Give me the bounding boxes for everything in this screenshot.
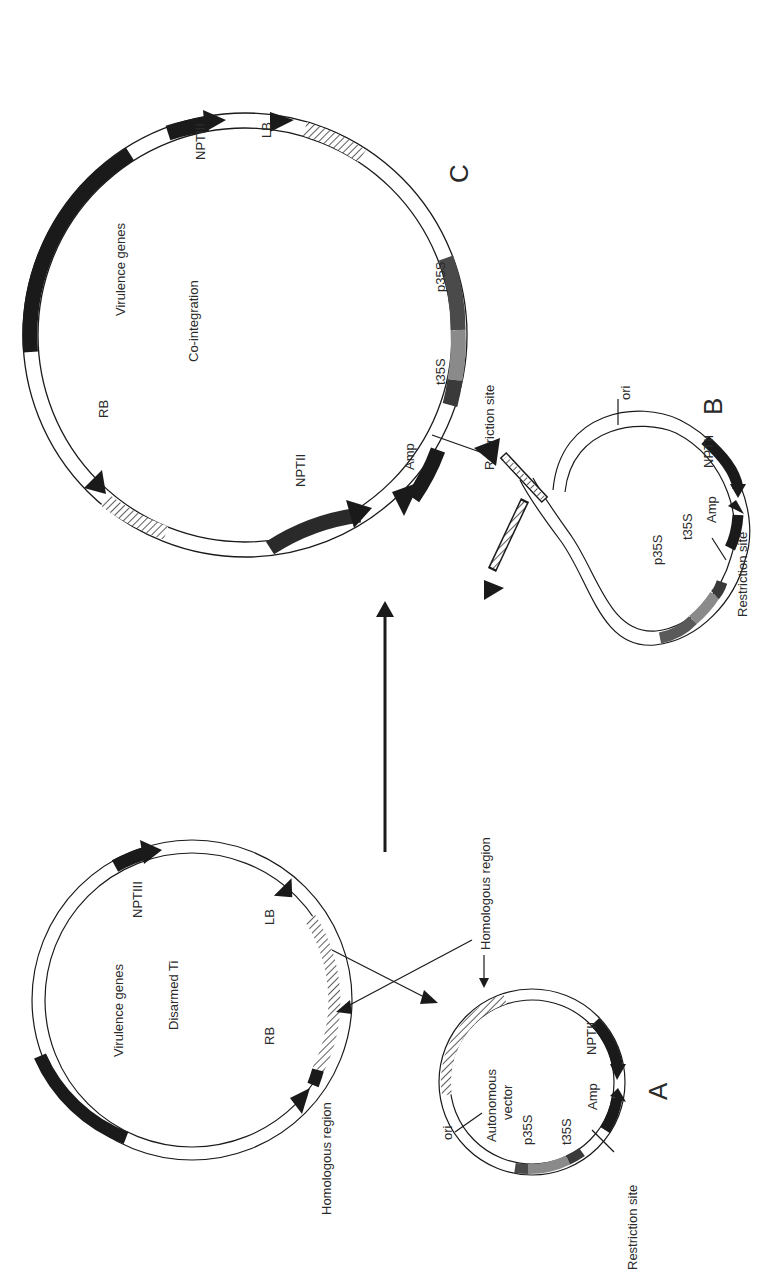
plasmid-c-nptii-label: NPTII <box>293 454 308 487</box>
plasmid-b-restriction-site-marker <box>712 538 726 560</box>
ti-nptiii-label: NPTIII <box>130 881 145 918</box>
plasmid-b-amp-label: Amp <box>704 496 719 523</box>
plasmid-b-p35s-label: p35S <box>650 534 665 565</box>
plasmid-a-gene-segment <box>528 1160 568 1169</box>
plasmid-a-p35s-segment <box>515 1168 528 1169</box>
plasmid-a-ori-label: ori <box>440 1125 455 1140</box>
cross-arrow-to-vector-icon <box>420 990 438 1004</box>
plasmid-c-gene-segment <box>455 330 458 380</box>
plasmid-b-hatched-segment-lower <box>493 502 524 568</box>
plasmid-a-t35s-segment <box>568 1152 582 1160</box>
reaction-arrow <box>376 601 394 852</box>
plasmid-b-letter: B <box>698 398 728 415</box>
plasmid-c-letter: C <box>444 164 474 183</box>
plasmid-c-virulence-label: Virulence genes <box>113 223 128 316</box>
plasmid-b-ori-label: ori <box>618 385 633 400</box>
cointegration-diagram: Virulence genes Co-integration NPTIII LB… <box>0 0 762 1279</box>
plasmid-c-lb-label: LB <box>259 122 274 138</box>
plasmid-c-hatched-segment-lb <box>305 129 362 156</box>
plasmid-a-amp-label: Amp <box>585 1083 600 1110</box>
plasmid-b-border-arrow-lower-icon <box>484 580 504 600</box>
cross-line-to-ti <box>344 940 472 1008</box>
ti-homologous-region-label: Homologous region <box>319 1102 334 1215</box>
plasmid-a-amp-segment <box>605 1098 617 1130</box>
plasmid-b-restriction-site-label: Restriction site <box>735 532 750 617</box>
plasmid-a-t35s-label: t35S <box>559 1118 574 1145</box>
disarmed-ti-plasmid: Virulence genes Disarmed Ti NPTIII LB RB… <box>32 840 352 1215</box>
ti-lb-label: LB <box>262 909 277 925</box>
plasmid-a-outer-ring <box>439 989 625 1175</box>
plasmid-a-ori-marker <box>455 1113 482 1132</box>
ti-homologous-segment <box>310 918 334 1070</box>
plasmid-c-nptii-segment <box>270 515 360 548</box>
plasmid-a-title-line2: vector <box>500 1084 515 1120</box>
ti-virulence-label: Virulence genes <box>111 964 126 1057</box>
plasmid-c-t35s-label: t35S <box>433 358 448 385</box>
plasmid-c-rb-label: RB <box>96 400 111 418</box>
plasmid-b-nptii-label: NPTII <box>701 435 716 468</box>
ti-rb-arrow-icon <box>290 1088 310 1114</box>
plasmid-a: Homologous region Autonomous vector ori … <box>439 837 673 1270</box>
recombination-cross <box>332 940 472 1014</box>
cross-line-to-vector <box>332 950 430 1000</box>
arrow-down-icon <box>479 978 489 988</box>
plasmid-b-t35s-label: t35S <box>680 513 695 540</box>
ti-title: Disarmed Ti <box>166 961 181 1030</box>
plasmid-b-p35s-segment <box>715 582 722 595</box>
plasmid-c: Virulence genes Co-integration NPTIII LB… <box>23 110 497 557</box>
ti-lb-arrow-icon <box>274 878 302 906</box>
plasmid-c-title: Co-integration <box>186 280 201 362</box>
plasmid-a-nptii-arrow-icon <box>610 1064 626 1080</box>
plasmid-a-p35s-label: p35S <box>520 1114 535 1145</box>
plasmid-b-hatched-segment-upper <box>505 458 543 498</box>
plasmid-c-t35s-segment <box>450 380 455 405</box>
plasmid-a-homologous-region-label: Homologous region <box>478 837 493 950</box>
plasmid-c-p35s-label: p35S <box>433 261 448 292</box>
arrow-up-icon <box>376 601 394 617</box>
plasmid-b: ori B NPTII Amp t35S p35S Restriction si… <box>474 385 750 645</box>
plasmid-a-letter: A <box>643 1082 673 1100</box>
plasmid-c-nptiii-label: NPTIII <box>193 123 208 160</box>
plasmid-a-title-line1: Autonomous <box>484 1069 499 1142</box>
ti-virulence-segment <box>40 1056 126 1138</box>
plasmid-a-restriction-site-marker <box>592 1130 614 1152</box>
ti-rb-label: RB <box>262 1027 277 1045</box>
plasmid-a-nptii-label: NPTII <box>584 1022 599 1055</box>
plasmid-c-amp-label: Amp <box>402 443 417 470</box>
plasmid-a-restriction-site-label: Restriction site <box>625 1185 640 1270</box>
